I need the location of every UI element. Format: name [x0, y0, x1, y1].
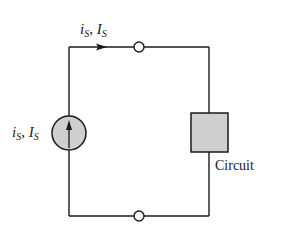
current-source	[52, 116, 86, 150]
top-upper-sub: S	[102, 28, 107, 39]
circuit-diagram: iS, IS iS, IS Circuit	[0, 0, 289, 228]
wires	[69, 47, 209, 216]
src-upper-sub: S	[34, 131, 39, 142]
top-sep: ,	[89, 21, 97, 37]
source-label: iS, IS	[12, 124, 39, 142]
src-sep: ,	[21, 124, 29, 140]
circuit-box	[191, 113, 228, 152]
terminal-bottom	[134, 211, 144, 221]
terminal-top	[134, 42, 144, 52]
circuit-label: Circuit	[215, 158, 254, 173]
top-current-label: iS, IS	[80, 21, 107, 39]
